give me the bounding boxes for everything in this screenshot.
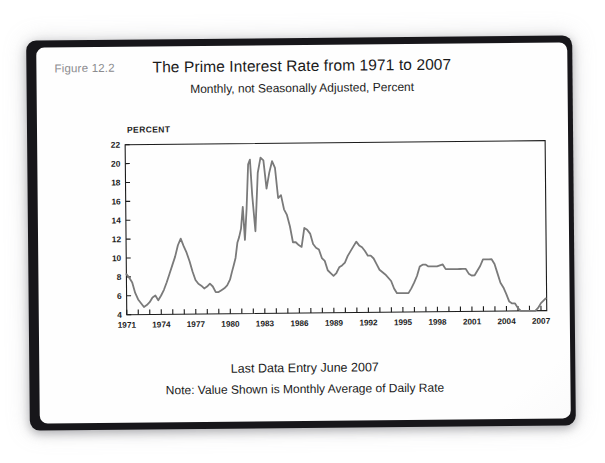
prime-rate-line-chart: 46810121416182022 1971197419771980198319… <box>93 135 555 347</box>
svg-text:4: 4 <box>117 310 122 320</box>
svg-text:1992: 1992 <box>359 318 378 327</box>
svg-text:16: 16 <box>111 196 121 206</box>
svg-text:18: 18 <box>111 178 121 188</box>
caption-note: Note: Value Shown is Monthly Average of … <box>39 379 570 398</box>
chart-subtitle: Monthly, not Seasonally Adjusted, Percen… <box>37 78 568 97</box>
svg-text:1983: 1983 <box>256 319 275 328</box>
plot-frame <box>125 141 547 315</box>
svg-text:14: 14 <box>111 215 121 225</box>
svg-text:1995: 1995 <box>394 318 413 327</box>
svg-text:22: 22 <box>111 140 121 150</box>
y-axis-ticks: 46810121416182022 <box>111 140 132 320</box>
x-axis-tick-labels: 1971197419771980198319861989199219951998… <box>118 317 551 330</box>
slide-page: Figure 12.2 The Prime Interest Rate from… <box>36 42 571 423</box>
svg-text:1971: 1971 <box>118 321 137 330</box>
svg-text:1980: 1980 <box>221 320 240 329</box>
svg-text:1974: 1974 <box>152 320 171 329</box>
svg-text:2007: 2007 <box>532 317 551 326</box>
svg-text:8: 8 <box>117 272 122 282</box>
svg-text:1989: 1989 <box>325 319 344 328</box>
svg-text:2004: 2004 <box>497 317 516 326</box>
svg-text:1998: 1998 <box>428 318 447 327</box>
chart-title: The Prime Interest Rate from 1971 to 200… <box>36 54 567 77</box>
svg-text:1977: 1977 <box>187 320 206 329</box>
svg-text:10: 10 <box>112 253 122 263</box>
photographed-slide: Figure 12.2 The Prime Interest Rate from… <box>0 0 605 463</box>
x-axis-ticks <box>127 306 541 315</box>
prime-rate-series-line <box>125 155 546 315</box>
svg-text:12: 12 <box>112 234 122 244</box>
caption-last-data-entry: Last Data Entry June 2007 <box>39 358 570 377</box>
svg-text:2001: 2001 <box>463 317 482 326</box>
chart-plot-area: 46810121416182022 1971197419771980198319… <box>93 135 555 347</box>
svg-text:6: 6 <box>117 291 122 301</box>
svg-text:1986: 1986 <box>290 319 309 328</box>
y-axis-unit-label: PERCENT <box>127 124 171 134</box>
svg-text:20: 20 <box>111 159 121 169</box>
